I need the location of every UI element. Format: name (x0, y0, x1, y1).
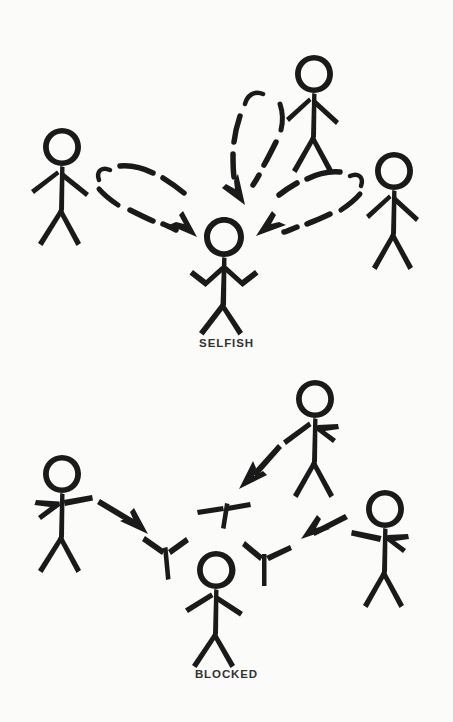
head (295, 55, 333, 93)
head (204, 217, 244, 257)
selfish-arrow-top (233, 93, 282, 185)
right-leg (58, 209, 81, 247)
right-arm (313, 100, 339, 126)
dash-segment-1 (350, 175, 362, 186)
dash-segment-3 (163, 178, 184, 193)
barrier-left-branch (142, 536, 165, 555)
torso (59, 493, 65, 538)
panel-blocked (35, 380, 410, 668)
left-arm (185, 593, 214, 614)
selfish-left-figure (31, 128, 89, 246)
blocked-barrier-right (242, 541, 292, 586)
barrier-right-branch (227, 502, 251, 511)
left-arm-shrug (190, 266, 225, 287)
dash-segment-4 (99, 189, 118, 205)
head (375, 152, 413, 190)
selfish-center-figure (190, 217, 259, 336)
right-arm (61, 173, 89, 198)
left-arm-pointing (351, 530, 382, 542)
head (296, 380, 334, 418)
blocked-barrier-left (142, 536, 189, 580)
dash-segment-1 (98, 169, 110, 180)
dash-segment-4 (341, 194, 360, 210)
blocked-barrier-top (197, 502, 251, 529)
right-leg (390, 233, 413, 271)
right-arm (215, 596, 243, 617)
selfish-arrow-right (279, 172, 362, 232)
left-arm-bent (35, 500, 61, 520)
panel-selfish (31, 55, 419, 336)
left-arm (286, 98, 312, 123)
right-arm-pointing (64, 495, 94, 506)
dash-segment-5 (264, 142, 276, 165)
left-arm (366, 195, 392, 220)
selfish-arrow-left (98, 166, 184, 230)
right-leg (58, 536, 81, 574)
head (197, 551, 236, 589)
blocked-top-figure (283, 380, 339, 498)
blocked-left-figure (35, 455, 94, 573)
dash-segment-1 (245, 93, 263, 104)
torso (221, 257, 227, 306)
left-arm-pointing (283, 422, 312, 446)
left-arm (31, 171, 60, 195)
blocked-center-figure (185, 551, 243, 668)
barrier-right-branch (266, 545, 292, 561)
dash-segment-2 (120, 166, 153, 173)
right-leg (310, 136, 333, 174)
barrier-stem (262, 554, 267, 586)
torso (382, 528, 388, 573)
torso (312, 418, 318, 463)
panel-caption-selfish: SELFISH (0, 337, 453, 349)
selfish-arrowhead-left (169, 211, 197, 237)
right-arm-bent (386, 534, 409, 553)
right-arm-bent (316, 424, 339, 443)
blocked-right-figure (351, 490, 409, 608)
stick-figure-illustration (0, 0, 453, 722)
selfish-top-figure (286, 55, 339, 173)
head (43, 455, 81, 493)
diagram-canvas: SELFISH BLOCKED (0, 0, 453, 722)
selfish-right-figure (366, 152, 419, 270)
head (366, 490, 404, 528)
barrier-left-branch (242, 541, 263, 561)
right-arm (393, 197, 419, 223)
dash-segment-4 (280, 104, 282, 130)
dash-segment-5 (130, 210, 153, 221)
dash-segment-6 (284, 227, 297, 232)
dash-segment-2 (307, 172, 340, 179)
blocked-arrowhead-left (120, 508, 148, 534)
barrier-right-branch (168, 537, 189, 555)
right-arm-shrug (224, 266, 259, 287)
right-leg (212, 633, 235, 669)
dash-segment-3 (279, 183, 297, 195)
right-leg (311, 461, 334, 499)
dash-segment-6 (253, 175, 259, 185)
panel-caption-blocked: BLOCKED (0, 668, 453, 680)
right-leg (220, 304, 243, 336)
barrier-left-branch (197, 506, 224, 515)
right-leg (381, 571, 404, 609)
blocked-arrow-top (252, 444, 282, 477)
dash-segment-5 (307, 214, 330, 224)
dash-segment-3 (233, 154, 234, 177)
dash-segment-2 (234, 116, 240, 142)
head (43, 128, 81, 166)
